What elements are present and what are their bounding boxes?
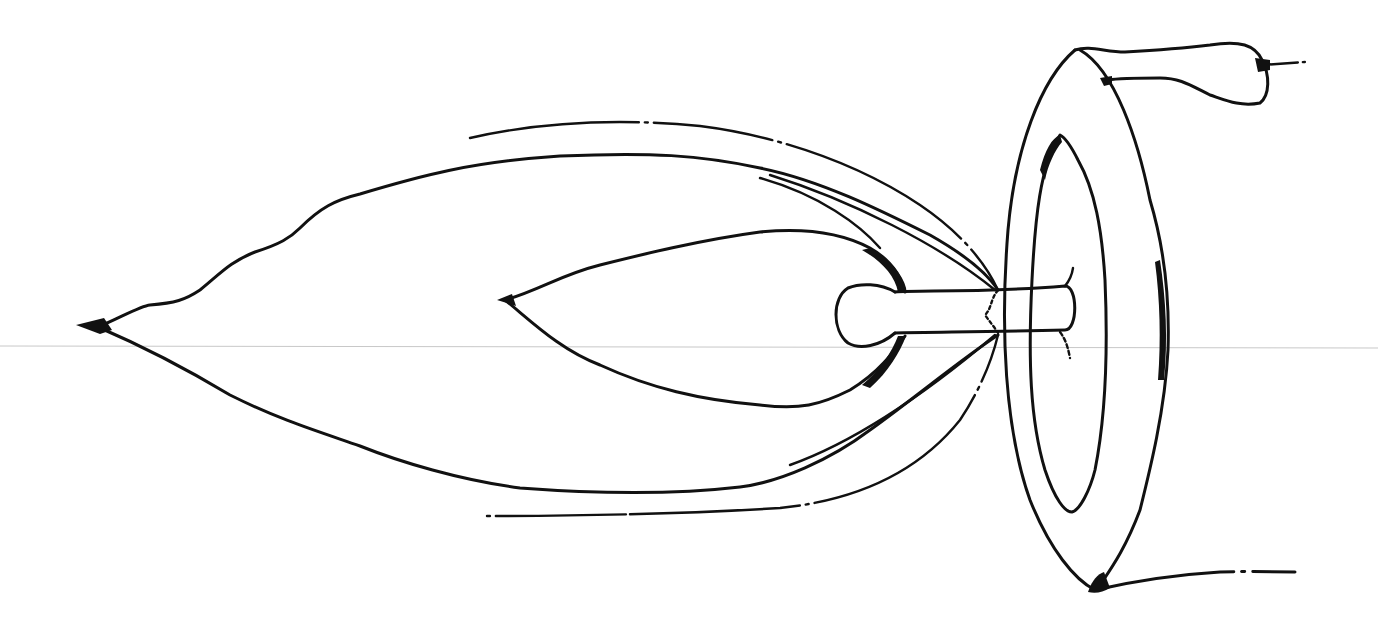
- bottom-tail: [1088, 572, 1295, 593]
- inner-sheath: [497, 231, 906, 407]
- top-appendage: [1075, 43, 1305, 104]
- horizontal-guide-line: [0, 346, 1378, 348]
- oval-ring: [1004, 50, 1168, 590]
- stalk: [836, 268, 1075, 358]
- outer-dashed-arc-top: [470, 122, 998, 290]
- outer-sheath: [76, 154, 998, 492]
- line-drawing-diagram: [0, 0, 1378, 635]
- outer-dashed-arc-bottom: [487, 335, 998, 516]
